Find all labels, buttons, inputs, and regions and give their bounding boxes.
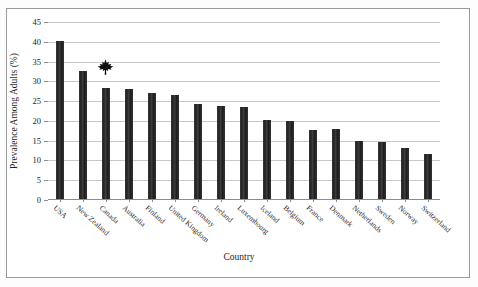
maple-leaf-icon <box>97 58 114 76</box>
bar <box>309 130 317 199</box>
x-axis-tick <box>106 199 107 202</box>
gridline <box>48 81 440 82</box>
x-axis-tick <box>313 199 314 202</box>
bar <box>102 88 110 199</box>
bar <box>355 141 363 199</box>
x-axis-title: Country <box>0 252 478 262</box>
bar <box>240 107 248 199</box>
y-axis-tick <box>44 42 48 43</box>
figure: Prevalence Among Adults (%) 051015202530… <box>0 0 478 287</box>
bar <box>56 41 64 199</box>
bar <box>401 148 409 199</box>
y-axis-tick-label: 20 <box>33 117 42 126</box>
bar <box>217 106 225 199</box>
y-axis-tick <box>44 101 48 102</box>
x-axis-tick <box>336 199 337 202</box>
bar <box>424 154 432 199</box>
bar <box>194 104 202 199</box>
y-axis-tick-label: 45 <box>33 18 42 27</box>
y-axis-tick-label: 35 <box>33 57 42 66</box>
y-axis-tick-label: 0 <box>37 196 41 205</box>
y-axis-tick <box>44 62 48 63</box>
x-axis-tick <box>382 199 383 202</box>
x-axis-tick <box>175 199 176 202</box>
x-axis-tick <box>60 199 61 202</box>
y-axis-tick-label: 25 <box>33 97 42 106</box>
bar <box>332 129 340 199</box>
x-axis-tick <box>267 199 268 202</box>
x-axis-tick <box>428 199 429 202</box>
bar <box>263 120 271 199</box>
x-axis-tick <box>359 199 360 202</box>
y-axis-tick-label: 30 <box>33 77 42 86</box>
bar <box>378 142 386 199</box>
bar <box>125 89 133 199</box>
gridline <box>48 22 440 23</box>
y-axis-tick <box>44 121 48 122</box>
y-axis-tick <box>44 180 48 181</box>
x-axis-tick <box>83 199 84 202</box>
y-axis-tick-label: 10 <box>33 156 42 165</box>
x-axis-tick <box>198 199 199 202</box>
y-axis-tick-label: 15 <box>33 136 42 145</box>
x-axis-tick <box>244 199 245 202</box>
y-axis-tick <box>44 200 48 201</box>
x-axis-tick <box>221 199 222 202</box>
y-axis-title: Prevalence Among Adults (%) <box>9 53 19 169</box>
y-axis-tick-label: 5 <box>37 176 41 185</box>
bar <box>286 121 294 199</box>
y-axis-tick <box>44 141 48 142</box>
x-axis-tick <box>129 199 130 202</box>
y-axis-tick <box>44 22 48 23</box>
x-axis-tick <box>405 199 406 202</box>
bar <box>148 93 156 199</box>
y-axis-tick <box>44 160 48 161</box>
x-axis-tick <box>290 199 291 202</box>
y-axis-tick <box>44 81 48 82</box>
plot-area: 051015202530354045 USANew ZealandCanadaA… <box>48 22 440 200</box>
x-axis-tick <box>152 199 153 202</box>
gridline <box>48 42 440 43</box>
bar <box>79 71 87 199</box>
bar <box>171 95 179 199</box>
y-axis-tick-label: 40 <box>33 38 42 47</box>
